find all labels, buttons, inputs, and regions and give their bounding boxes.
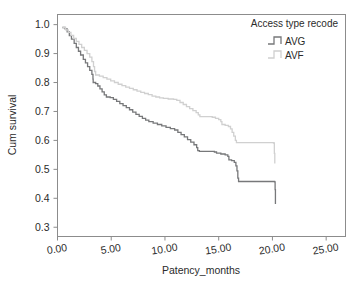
x-tick-label: 0.00 [46, 241, 68, 256]
y-tick-label: 0.8 [35, 76, 50, 88]
legend-swatch-avg [268, 37, 281, 44]
x-tick-label: 5.00 [100, 241, 122, 256]
x-axis-ticks: 0.005.0010.0015.0020.0025.00 [46, 237, 340, 257]
curve-avg [62, 28, 275, 205]
legend-title: Access type recode [251, 18, 339, 29]
legend-swatch-avf [268, 51, 281, 58]
y-axis-title: Cum survival [6, 95, 18, 156]
y-tick-label: 0.9 [35, 47, 50, 59]
chart-canvas: 0.30.40.50.60.70.80.91.0 0.005.0010.0015… [0, 0, 363, 290]
x-tick-label: 20.00 [258, 241, 286, 257]
x-tick-label: 25.00 [312, 241, 340, 257]
plot-frame [58, 15, 346, 237]
y-tick-label: 1.0 [35, 18, 50, 30]
x-axis-title: Patency_months [162, 264, 240, 276]
survival-chart: 0.30.40.50.60.70.80.91.0 0.005.0010.0015… [0, 0, 363, 290]
legend: Access type recodeAVGAVF [251, 18, 339, 61]
survival-curves [62, 28, 275, 205]
curve-avf [62, 28, 274, 164]
y-tick-label: 0.4 [35, 192, 50, 204]
y-tick-label: 0.3 [35, 221, 50, 233]
y-tick-label: 0.5 [35, 163, 50, 175]
x-tick-label: 15.00 [204, 241, 232, 257]
legend-label-avf: AVF [285, 50, 304, 61]
y-tick-label: 0.6 [35, 134, 50, 146]
y-tick-label: 0.7 [35, 105, 50, 117]
y-axis-ticks: 0.30.40.50.60.70.80.91.0 [35, 18, 58, 233]
x-tick-label: 10.00 [150, 241, 178, 257]
legend-label-avg: AVG [285, 36, 306, 47]
